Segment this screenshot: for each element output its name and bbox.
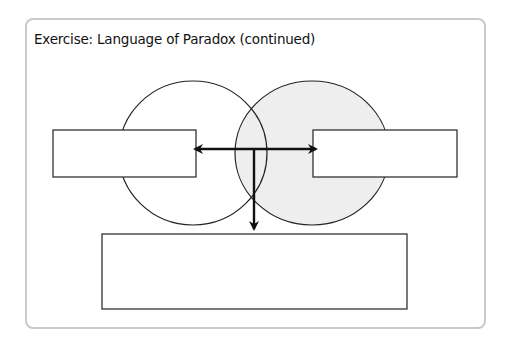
venn-diagram bbox=[0, 0, 512, 352]
right-answer-box[interactable] bbox=[313, 130, 457, 177]
bottom-answer-box[interactable] bbox=[102, 234, 407, 309]
left-answer-box[interactable] bbox=[53, 130, 196, 177]
